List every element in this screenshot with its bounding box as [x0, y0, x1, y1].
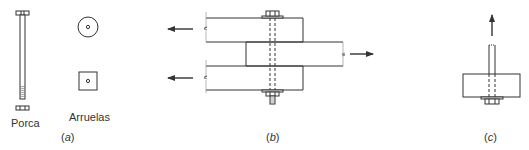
middle-plate — [246, 42, 345, 66]
square-washer-icon — [79, 72, 97, 90]
caption-c: (c) — [484, 131, 497, 143]
plate — [463, 74, 520, 97]
caption-b: (b) — [266, 131, 279, 143]
panel-c — [463, 15, 520, 104]
nut-label: Porca — [11, 117, 40, 129]
top-plate — [204, 12, 303, 42]
bolt-icon — [262, 11, 283, 104]
caption-a: (a) — [61, 131, 74, 143]
round-washer-icon — [78, 17, 98, 37]
washers-label: Arruelas — [69, 111, 110, 123]
panel-b — [168, 11, 373, 104]
panel-a — [16, 11, 98, 110]
bottom-plate — [204, 60, 303, 93]
bolt-icon — [16, 11, 29, 99]
bolted-joint-diagram — [0, 0, 529, 150]
nut-icon — [16, 106, 29, 110]
